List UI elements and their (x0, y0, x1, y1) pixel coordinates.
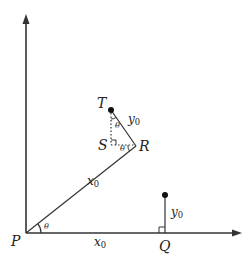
label-x0-PR-sub: 0 (94, 179, 99, 189)
label-T: T (97, 96, 106, 110)
x-axis-arrowhead-icon (232, 230, 242, 237)
right-angle-Q (159, 227, 165, 233)
angle-arc-R (128, 145, 130, 151)
diagram-canvas: P Q R S T x0 x0 y0 y0 θ θ θ (0, 0, 250, 266)
label-R: R (139, 139, 150, 153)
label-theta-R: θ (120, 145, 125, 153)
label-y0-RT: y0 (128, 113, 140, 127)
diagram-svg (0, 0, 250, 266)
label-Q: Q (159, 239, 170, 253)
label-y0-Q: y0 (171, 206, 183, 220)
y-axis-arrowhead-icon (23, 14, 30, 24)
label-x0-PQ: x0 (94, 236, 106, 250)
label-x0-PR: x0 (87, 175, 99, 189)
label-y0-Q-base: y (171, 205, 178, 219)
label-y0-Q-sub: 0 (178, 210, 183, 220)
label-y0-RT-base: y (128, 112, 135, 126)
label-x0-PR-base: x (87, 174, 94, 188)
angle-arc-P (38, 224, 41, 233)
label-P: P (11, 234, 20, 248)
label-S: S (98, 138, 108, 152)
label-x0-PQ-base: x (94, 235, 101, 249)
point-Q-dot (162, 192, 168, 198)
segment-PR (26, 146, 136, 233)
point-T-dot (108, 107, 114, 113)
right-angle-S (111, 140, 116, 145)
label-theta-T: θ (115, 122, 120, 130)
angle-arc-T (111, 118, 116, 120)
label-x0-PQ-sub: 0 (101, 240, 106, 250)
label-theta-P: θ (44, 223, 49, 231)
label-y0-RT-sub: 0 (135, 117, 140, 127)
